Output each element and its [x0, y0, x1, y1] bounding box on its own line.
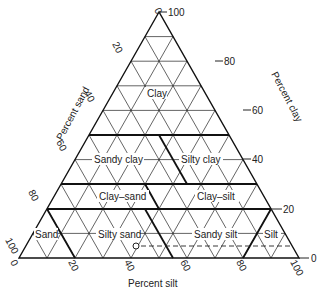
clay-tick-0: 0	[311, 253, 317, 264]
silt-tick-20: 20	[66, 258, 81, 273]
clay-tick-100: 100	[168, 7, 185, 18]
region-label-sand: Sand	[35, 229, 58, 240]
ternary-plot: Clay Sandy clay Silty clay Clay–sand Cla…	[0, 0, 319, 290]
region-label-sandy-silt: Sandy silt	[194, 229, 238, 240]
sand-tick-0: 0	[152, 6, 165, 16]
region-label-silty-sand: Silty sand	[98, 229, 141, 240]
clay-tick-60: 60	[252, 105, 264, 116]
clay-tick-40: 40	[252, 154, 264, 165]
soil-texture-diagram: Clay Sandy clay Silty clay Clay–sand Cla…	[0, 0, 319, 290]
grid-lines	[33, 37, 285, 258]
sand-tick-80: 80	[26, 188, 41, 203]
region-label-silt: Silt	[264, 229, 278, 240]
silt-tick-100: 100	[288, 258, 306, 278]
silt-tick-60: 60	[178, 258, 193, 273]
region-label-clay-sand: Clay–sand	[99, 191, 146, 202]
clay-tick-20: 20	[283, 204, 295, 215]
region-label-silty-clay: Silty clay	[181, 154, 220, 165]
silt-tick-0: 0	[8, 258, 21, 268]
silt-axis-ticks: 0 20 40 60 80 100	[8, 258, 306, 278]
region-label-clay: Clay	[147, 88, 167, 99]
sand-axis-label: Percent sand	[54, 85, 91, 142]
silt-tick-80: 80	[234, 258, 249, 273]
clay-axis-label: Percent clay	[269, 70, 305, 124]
silt-tick-40: 40	[122, 258, 137, 273]
sand-tick-20: 20	[110, 40, 125, 55]
clay-tick-80: 80	[224, 56, 236, 67]
silt-axis-label: Percent silt	[128, 278, 178, 289]
sample-point-marker	[133, 243, 139, 249]
region-label-sandy-clay: Sandy clay	[94, 154, 143, 165]
region-label-clay-silt: Clay–silt	[197, 191, 235, 202]
sand-tick-100: 100	[3, 236, 21, 256]
